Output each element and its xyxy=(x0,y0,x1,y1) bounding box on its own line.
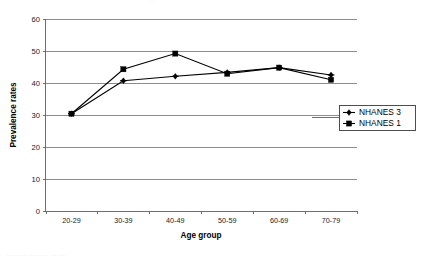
legend-item-label: NHANES 3 xyxy=(359,107,401,117)
x-tick-label-50-59: 50-59 xyxy=(218,216,236,225)
x-tick-label-20-29: 20-29 xyxy=(62,216,80,225)
x-tick-label-group: 20-2930-3940-4950-5960-6970-79 xyxy=(62,216,340,225)
square-marker xyxy=(346,121,351,126)
legend-item-label: NHANES 1 xyxy=(359,118,401,128)
y-axis-title: Prevalence rates xyxy=(9,82,18,148)
clipped-caption-fragment: — —— ——— — — xyxy=(6,251,206,259)
y-tick-label-40: 40 xyxy=(32,79,40,88)
x-tick-label-30-39: 30-39 xyxy=(114,216,132,225)
y-tick-label-group: 0102030405060 xyxy=(32,15,40,216)
y-tick-label-20: 20 xyxy=(32,143,40,152)
x-axis-title: Age group xyxy=(181,231,222,240)
data-point-40-49 xyxy=(173,51,178,56)
y-tick-label-50: 50 xyxy=(32,47,40,56)
prevalence-rates-line-chart: ·· 0102030405060 20-2930-3940-4950-5960-… xyxy=(0,0,425,259)
legend[interactable]: NHANES 3NHANES 1 xyxy=(340,106,416,131)
clipped-title-fragment: ·· xyxy=(150,0,300,6)
x-tick-label-60-69: 60-69 xyxy=(270,216,288,225)
series-line xyxy=(71,68,331,114)
y-tick-label-30: 30 xyxy=(32,111,40,120)
x-tick-label-70-79: 70-79 xyxy=(322,216,340,225)
series-nhanes-3 xyxy=(68,65,334,117)
data-point-20-29 xyxy=(69,111,74,116)
chart-canvas: 0102030405060 20-2930-3940-4950-5960-697… xyxy=(0,0,425,259)
y-tick-label-10: 10 xyxy=(32,175,40,184)
x-tick-label-40-49: 40-49 xyxy=(166,216,184,225)
data-point-60-69 xyxy=(277,65,282,70)
gridline-group xyxy=(46,20,358,180)
data-point-30-39 xyxy=(121,67,126,72)
data-point-70-79 xyxy=(328,77,333,82)
y-tick-label-60: 60 xyxy=(32,15,40,24)
y-tick-label-0: 0 xyxy=(36,207,40,216)
data-point-50-59 xyxy=(225,71,230,76)
